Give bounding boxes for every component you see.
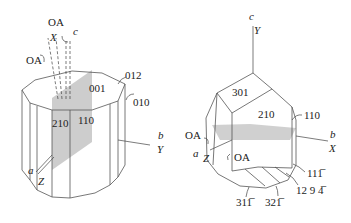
- face-012: 012: [125, 69, 142, 81]
- face-12-9-4: 12 9 4̅: [296, 184, 327, 196]
- left-x-axis-label: X: [49, 31, 58, 43]
- left-oa-side: OA: [26, 54, 42, 66]
- right-c-axis-label: c: [249, 10, 254, 22]
- right-oa-left: OA: [185, 129, 201, 141]
- left-a-axis-label: a: [28, 164, 34, 176]
- right-crystal: c Y 301 210 110 b X OA a Z OA 111̅ 12 9 …: [185, 10, 337, 208]
- face-110: 110: [78, 114, 95, 126]
- face-210: 210: [52, 117, 69, 129]
- right-shaded-plane: [212, 124, 296, 140]
- left-b-axis-label: b: [158, 129, 164, 141]
- right-oa-bottom: OA: [234, 151, 250, 163]
- right-y-axis-label: Y: [254, 24, 262, 36]
- left-crystal: OA X c OA 001 012 010 210 110 b Y a Z: [22, 16, 165, 198]
- left-z-axis-label: Z: [38, 175, 45, 187]
- face-210-right: 210: [258, 108, 275, 120]
- crystal-diagram: OA X c OA 001 012 010 210 110 b Y a Z: [0, 0, 351, 223]
- face-11-1: 111̅: [307, 167, 326, 179]
- right-x-axis-label: X: [328, 142, 337, 154]
- left-c-axis-label: c: [73, 25, 78, 37]
- face-32-1: 321̅: [265, 196, 285, 208]
- right-b-axis-label: b: [330, 128, 336, 140]
- left-y-axis-label: Y: [157, 143, 165, 155]
- left-oa-top: OA: [48, 16, 64, 28]
- face-301: 301: [232, 86, 249, 98]
- face-31-1: 311̅: [236, 196, 255, 208]
- face-110-right: 110: [304, 109, 321, 121]
- right-z-axis-label: Z: [203, 152, 210, 164]
- face-001: 001: [89, 82, 106, 94]
- right-a-axis-label: a: [193, 147, 199, 159]
- face-010: 010: [133, 96, 150, 108]
